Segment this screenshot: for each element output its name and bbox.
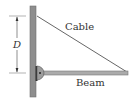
pin-icon [39, 72, 41, 74]
dimension-label: D [12, 39, 21, 50]
beam [43, 71, 128, 75]
wall [30, 6, 36, 97]
cable-label: Cable [65, 21, 94, 32]
beam-label: Beam [76, 77, 105, 88]
arrow-down-icon [16, 68, 19, 73]
beam-cable-diagram: D Cable Beam [0, 0, 137, 100]
hinge-support [36, 66, 45, 81]
arrow-up-icon [16, 17, 19, 22]
